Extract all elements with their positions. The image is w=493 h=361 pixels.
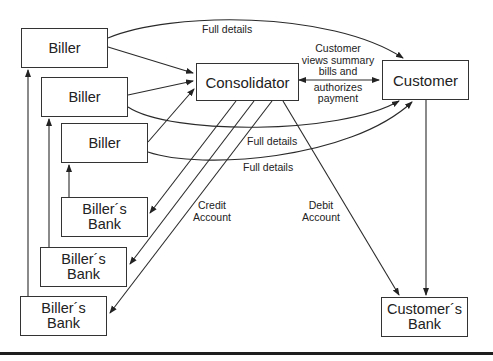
- edge-biller2-consolidator: [128, 81, 193, 95]
- consolidator-label: Consolidator: [205, 75, 289, 90]
- credit-account-line-1: Credit: [193, 200, 231, 212]
- full-details-label-low: Full details: [243, 162, 293, 174]
- consolidator-box: Consolidator: [196, 63, 299, 101]
- debit-account-label: Debit Account: [302, 200, 340, 223]
- customer-action-line-5: payment: [294, 93, 382, 105]
- edge-consolidator-bank1: [150, 101, 236, 213]
- billers-bank-label-1: Biller´s Bank: [76, 202, 133, 232]
- billers-bank-box-1: Biller´s Bank: [61, 197, 148, 237]
- bottom-divider: [0, 352, 493, 355]
- credit-account-line-2: Account: [193, 212, 231, 224]
- customers-bank-label: Customer´s Bank: [386, 302, 463, 332]
- biller-label-2: Biller: [68, 90, 100, 105]
- biller-box-1: Biller: [21, 28, 108, 68]
- customer-label: Customer: [393, 73, 458, 88]
- billers-bank-label-2: Biller´s Bank: [55, 252, 112, 282]
- billers-bank-box-3: Biller´s Bank: [20, 296, 107, 336]
- customer-action-line-1: Customer: [294, 43, 382, 55]
- billers-bank-box-2: Biller´s Bank: [40, 247, 127, 287]
- edge-consolidator-customers-bank: [283, 101, 399, 295]
- biller-label-3: Biller: [88, 136, 120, 151]
- credit-account-label: Credit Account: [193, 200, 231, 223]
- edge-biller2-customer: [128, 101, 399, 127]
- edge-consolidator-bank2: [130, 101, 254, 264]
- debit-account-line-2: Account: [302, 212, 340, 224]
- customer-action-label: Customer views summary bills and authori…: [294, 43, 382, 105]
- edge-biller3-customer: [148, 102, 412, 160]
- customer-box: Customer: [382, 60, 469, 100]
- full-details-label-top: Full details: [202, 24, 252, 36]
- customer-action-line-3: bills and: [294, 66, 382, 78]
- edge-biller1-consolidator: [108, 47, 193, 73]
- debit-account-line-1: Debit: [302, 200, 340, 212]
- customers-bank-box: Customer´s Bank: [381, 297, 468, 337]
- edge-biller3-consolidator: [148, 89, 194, 142]
- full-details-label-mid: Full details: [247, 136, 297, 148]
- biller-box-3: Biller: [61, 123, 148, 163]
- biller-label-1: Biller: [48, 41, 80, 56]
- biller-box-2: Biller: [41, 77, 128, 117]
- billers-bank-label-3: Biller´s Bank: [35, 301, 92, 331]
